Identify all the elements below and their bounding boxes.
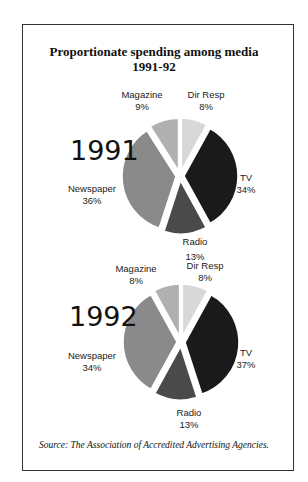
year-label-1992: 1992	[69, 303, 138, 331]
source-note: Source: The Association of Accredited Ad…	[0, 440, 308, 450]
label-radio-1991: Radio13%	[183, 236, 208, 263]
label-dirresp-1992: Dir Resp8%	[187, 260, 224, 284]
pie-charts	[0, 0, 308, 482]
year-label-1991: 1991	[70, 137, 139, 165]
label-magazine-1991: Magazine9%	[121, 89, 162, 113]
label-dirresp-1991: Dir Resp8%	[188, 89, 225, 113]
label-magazine-1992: Magazine8%	[115, 263, 156, 287]
label-radio-1992: Radio13%	[177, 407, 202, 431]
label-newspaper-1992: Newspaper34%	[68, 350, 116, 374]
label-tv-1992: TV37%	[236, 347, 255, 371]
label-newspaper-1991: Newspaper36%	[68, 183, 116, 207]
label-tv-1991: TV34%	[236, 172, 255, 196]
